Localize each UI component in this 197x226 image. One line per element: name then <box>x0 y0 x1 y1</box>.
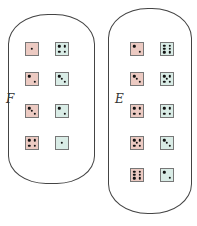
die-green-f-4 <box>55 136 69 150</box>
pip-icon <box>138 174 140 176</box>
pip-icon <box>34 113 36 115</box>
pip-icon <box>169 145 171 147</box>
pip-icon <box>63 50 65 52</box>
pip-icon <box>163 51 165 53</box>
pip-icon <box>133 170 135 172</box>
pip-icon <box>61 78 63 80</box>
pip-icon <box>136 142 138 144</box>
pip-icon <box>31 110 33 112</box>
pip-icon <box>58 45 60 47</box>
die-green-f-2 <box>55 72 69 86</box>
die-green-e-1 <box>160 42 174 56</box>
pip-icon <box>139 139 141 141</box>
pip-icon <box>163 44 165 46</box>
pip-icon <box>169 75 171 77</box>
die-green-e-4 <box>160 136 174 150</box>
die-red-f-4 <box>25 136 39 150</box>
pip-icon <box>168 112 170 114</box>
die-red-f-1 <box>25 42 39 56</box>
pip-icon <box>33 144 35 146</box>
pip-icon <box>166 78 168 80</box>
pip-icon <box>133 45 135 47</box>
pip-icon <box>33 139 35 141</box>
pip-icon <box>136 78 138 80</box>
die-green-f-3 <box>55 104 69 118</box>
pip-icon <box>163 171 165 173</box>
pip-icon <box>163 48 165 50</box>
pip-icon <box>133 75 135 77</box>
pip-icon <box>61 142 63 144</box>
pip-icon <box>168 48 170 50</box>
pip-icon <box>31 48 33 50</box>
pip-icon <box>63 112 65 114</box>
pip-icon <box>58 50 60 52</box>
pip-icon <box>63 45 65 47</box>
pip-icon <box>33 80 35 82</box>
pip-icon <box>168 176 170 178</box>
pip-icon <box>28 107 30 109</box>
die-red-e-4 <box>130 136 144 150</box>
pip-icon <box>139 81 141 83</box>
pip-icon <box>166 142 168 144</box>
die-red-e-1 <box>130 42 144 56</box>
pip-icon <box>138 112 140 114</box>
die-red-f-3 <box>25 104 39 118</box>
pip-icon <box>168 44 170 46</box>
pip-icon <box>163 81 165 83</box>
set-e-label: E <box>115 92 124 106</box>
die-red-e-5 <box>130 168 144 182</box>
pip-icon <box>133 145 135 147</box>
set-e-outline <box>108 8 192 214</box>
pip-icon <box>138 107 140 109</box>
pip-icon <box>168 107 170 109</box>
pip-icon <box>133 112 135 114</box>
pip-icon <box>138 177 140 179</box>
pip-icon <box>133 107 135 109</box>
die-green-e-3 <box>160 104 174 118</box>
pip-icon <box>139 145 141 147</box>
pip-icon <box>28 75 30 77</box>
die-green-e-5 <box>160 168 174 182</box>
pip-icon <box>169 81 171 83</box>
set-f-label: F <box>6 92 14 106</box>
pip-icon <box>58 107 60 109</box>
pip-icon <box>28 139 30 141</box>
pip-icon <box>133 174 135 176</box>
pip-icon <box>64 81 66 83</box>
die-green-f-1 <box>55 42 69 56</box>
pip-icon <box>163 112 165 114</box>
pip-icon <box>138 170 140 172</box>
pip-icon <box>163 139 165 141</box>
die-red-e-3 <box>130 104 144 118</box>
pip-icon <box>163 75 165 77</box>
die-green-e-2 <box>160 72 174 86</box>
pip-icon <box>133 139 135 141</box>
set-f-outline <box>8 14 95 184</box>
pip-icon <box>163 107 165 109</box>
pip-icon <box>168 51 170 53</box>
pip-icon <box>58 75 60 77</box>
die-red-e-2 <box>130 72 144 86</box>
die-red-f-2 <box>25 72 39 86</box>
pip-icon <box>28 144 30 146</box>
pip-icon <box>138 50 140 52</box>
pip-icon <box>133 177 135 179</box>
